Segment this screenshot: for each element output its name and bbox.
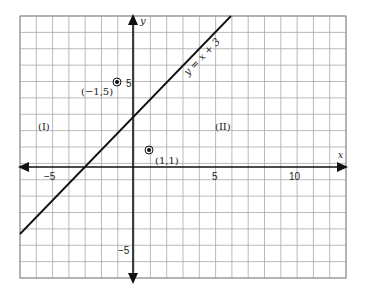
- x-tick-label-10: 10: [289, 171, 301, 182]
- grid-lines: [20, 16, 346, 278]
- region-label-II: (II): [215, 121, 231, 132]
- point-label-1-1: (1,1): [155, 155, 179, 166]
- coordinate-graph: y x −5 5 10 5 −5 y = x + 3 (−1,5) (1,1) …: [0, 0, 365, 294]
- x-axis-label: x: [338, 150, 343, 160]
- point-label-neg1-5: (−1,5): [81, 86, 113, 97]
- point-neg1-5: [113, 78, 121, 86]
- region-label-I: (I): [38, 121, 50, 132]
- x-tick-label-5: 5: [212, 171, 218, 182]
- y-tick-label-5: 5: [126, 78, 132, 89]
- x-tick-label-neg5: −5: [44, 171, 56, 182]
- y-axis-label: y: [139, 15, 146, 26]
- y-tick-label-neg5: −5: [118, 245, 130, 256]
